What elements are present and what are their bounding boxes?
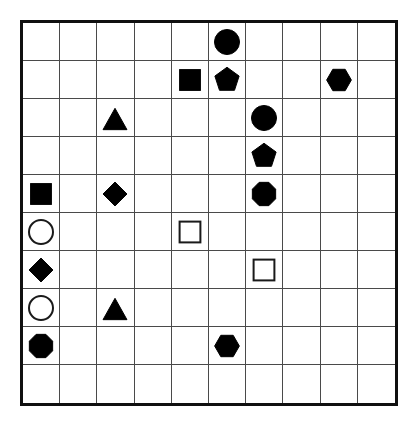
grid-cell-r8c9-empty (321, 289, 358, 327)
grid-cell-r10c2-empty (60, 365, 97, 403)
grid-cell-r4c7-filled-pentagon (246, 137, 283, 175)
grid-cell-r7c5-empty (172, 251, 209, 289)
grid-cell-r4c10-empty (358, 137, 395, 175)
shape-grid-canvas (0, 0, 419, 428)
grid-cell-r4c1-empty (23, 137, 60, 175)
grid-cell-r1c3-empty (97, 23, 134, 61)
grid-cell-r6c8-empty (283, 213, 320, 251)
grid-cell-r8c8-empty (283, 289, 320, 327)
filled-octagon-icon (28, 333, 54, 359)
grid-cell-r7c8-empty (283, 251, 320, 289)
grid-cell-r5c4-empty (135, 175, 172, 213)
grid-cell-r6c9-empty (321, 213, 358, 251)
filled-circle-icon (214, 29, 240, 55)
grid-cell-r1c9-empty (321, 23, 358, 61)
grid-cell-r7c1-filled-diamond (23, 251, 60, 289)
open-square-icon (177, 219, 203, 245)
grid-cell-r10c3-empty (97, 365, 134, 403)
grid-cell-r2c3-empty (97, 61, 134, 99)
grid-cell-r7c7-open-square (246, 251, 283, 289)
grid-cell-r10c6-empty (209, 365, 246, 403)
grid-cell-r6c10-empty (358, 213, 395, 251)
grid-cell-r8c3-filled-triangle (97, 289, 134, 327)
grid-cell-r5c7-filled-octagon (246, 175, 283, 213)
grid-cell-r5c6-empty (209, 175, 246, 213)
grid-cell-r3c5-empty (172, 99, 209, 137)
grid-cell-r9c4-empty (135, 327, 172, 365)
grid-cell-r3c2-empty (60, 99, 97, 137)
grid-cell-r8c2-empty (60, 289, 97, 327)
grid-cell-r2c9-filled-hexagon (321, 61, 358, 99)
grid-cell-r8c4-empty (135, 289, 172, 327)
grid-cell-r3c3-filled-triangle (97, 99, 134, 137)
grid-cell-r6c6-empty (209, 213, 246, 251)
grid-cell-r9c3-empty (97, 327, 134, 365)
filled-triangle-icon (102, 105, 128, 131)
filled-pentagon-icon (251, 143, 277, 169)
filled-square-icon (177, 67, 203, 93)
grid-cell-r5c9-empty (321, 175, 358, 213)
grid-cell-r3c1-empty (23, 99, 60, 137)
grid-cell-r7c2-empty (60, 251, 97, 289)
grid-cell-r8c1-open-circle (23, 289, 60, 327)
grid-cell-r5c1-filled-square (23, 175, 60, 213)
grid-cell-r4c5-empty (172, 137, 209, 175)
grid-cell-r6c1-open-circle (23, 213, 60, 251)
grid-cell-r3c8-empty (283, 99, 320, 137)
grid-cell-r2c8-empty (283, 61, 320, 99)
grid-cell-r3c7-filled-circle (246, 99, 283, 137)
filled-triangle-icon (102, 295, 128, 321)
open-circle-icon (28, 219, 54, 245)
filled-circle-icon (251, 105, 277, 131)
grid-cell-r1c2-empty (60, 23, 97, 61)
grid-cell-r9c8-empty (283, 327, 320, 365)
grid-cell-r10c5-empty (172, 365, 209, 403)
filled-diamond-icon (28, 257, 54, 283)
grid-cell-r5c5-empty (172, 175, 209, 213)
grid-cell-r9c5-empty (172, 327, 209, 365)
filled-diamond-icon (102, 181, 128, 207)
filled-hexagon-icon (214, 333, 240, 359)
grid-cell-r8c6-empty (209, 289, 246, 327)
grid-cell-r9c9-empty (321, 327, 358, 365)
grid-cell-r10c1-empty (23, 365, 60, 403)
grid-cell-r9c10-empty (358, 327, 395, 365)
grid-cell-r10c4-empty (135, 365, 172, 403)
grid-border (20, 20, 398, 406)
grid-cell-r1c1-empty (23, 23, 60, 61)
grid-cell-r7c6-empty (209, 251, 246, 289)
grid-cell-r9c6-filled-hexagon (209, 327, 246, 365)
grid-cell-r7c3-empty (97, 251, 134, 289)
grid-cell-r2c10-empty (358, 61, 395, 99)
grid-cell-r5c2-empty (60, 175, 97, 213)
grid-cell-r2c1-empty (23, 61, 60, 99)
grid-cell-r5c10-empty (358, 175, 395, 213)
grid-cell-r10c7-empty (246, 365, 283, 403)
grid-cell-r3c6-empty (209, 99, 246, 137)
grid-cell-r6c4-empty (135, 213, 172, 251)
grid-cell-r8c7-empty (246, 289, 283, 327)
open-square-icon (251, 257, 277, 283)
grid-cell-r4c8-empty (283, 137, 320, 175)
filled-octagon-icon (251, 181, 277, 207)
grid-cell-r8c10-empty (358, 289, 395, 327)
open-circle-icon (28, 295, 54, 321)
grid-cell-r4c4-empty (135, 137, 172, 175)
grid-cell-r2c4-empty (135, 61, 172, 99)
grid-cell-r4c6-empty (209, 137, 246, 175)
grid-cell-r4c2-empty (60, 137, 97, 175)
grid-cell-r1c10-empty (358, 23, 395, 61)
grid-cell-r5c8-empty (283, 175, 320, 213)
grid-cell-r9c1-filled-octagon (23, 327, 60, 365)
grid-cell-r5c3-filled-diamond (97, 175, 134, 213)
grid-cell-r4c3-empty (97, 137, 134, 175)
filled-hexagon-icon (326, 67, 352, 93)
grid-cell-r1c5-empty (172, 23, 209, 61)
grid-cell-r1c8-empty (283, 23, 320, 61)
grid-cell-r10c8-empty (283, 365, 320, 403)
grid-cell-r3c10-empty (358, 99, 395, 137)
grid-cell-r8c5-empty (172, 289, 209, 327)
grid-cell-r3c4-empty (135, 99, 172, 137)
shape-grid (23, 23, 395, 403)
grid-cell-r9c7-empty (246, 327, 283, 365)
